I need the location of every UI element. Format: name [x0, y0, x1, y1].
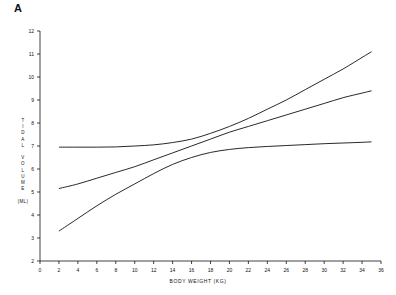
plot-area: 024681012141618202224262830323436 234567…	[0, 0, 396, 295]
data-curves	[59, 52, 372, 231]
x-tick-label: 36	[378, 267, 384, 273]
y-tick-label: 5	[31, 189, 34, 195]
y-tick-label: 9	[31, 97, 34, 103]
x-tick-label: 18	[208, 267, 214, 273]
y-tick-label: 6	[31, 166, 34, 172]
x-tick-label: 24	[265, 267, 271, 273]
y-tick-label: 11	[29, 51, 34, 57]
curve-upper	[59, 52, 372, 147]
y-axis-label: TIDAL VOLUME (ML)	[16, 118, 30, 205]
x-tick-label: 0	[39, 267, 42, 273]
y-tick-label: 2	[31, 258, 34, 264]
axes	[40, 31, 381, 261]
x-axis-ticks: 024681012141618202224262830323436	[39, 261, 384, 273]
chart-figure: A TIDAL VOLUME (ML) 02468101214161820222…	[0, 0, 396, 295]
x-tick-label: 4	[76, 267, 79, 273]
y-tick-label: 12	[28, 28, 34, 34]
y-tick-label: 3	[31, 235, 34, 241]
curve-lower	[59, 142, 372, 231]
x-tick-label: 8	[114, 267, 117, 273]
y-axis-ticks: 23456789101112	[28, 28, 40, 264]
panel-label: A	[14, 2, 22, 14]
x-tick-label: 32	[340, 267, 346, 273]
y-tick-label: 7	[31, 143, 34, 149]
x-tick-label: 6	[95, 267, 98, 273]
x-tick-label: 28	[302, 267, 308, 273]
x-tick-label: 34	[359, 267, 365, 273]
x-tick-label: 22	[246, 267, 252, 273]
y-axis-label-char: (ML)	[16, 199, 30, 205]
y-tick-label: 4	[31, 212, 34, 218]
y-tick-label: 8	[31, 120, 34, 126]
x-tick-label: 14	[170, 267, 176, 273]
x-axis-label: BODY WEIGHT (KG)	[0, 278, 396, 284]
x-tick-label: 20	[227, 267, 233, 273]
x-tick-label: 2	[58, 267, 61, 273]
x-tick-label: 30	[321, 267, 327, 273]
y-tick-label: 10	[28, 74, 34, 80]
x-tick-label: 26	[283, 267, 289, 273]
x-tick-label: 16	[189, 267, 195, 273]
x-tick-label: 12	[151, 267, 157, 273]
x-tick-label: 10	[132, 267, 138, 273]
curve-middle	[59, 91, 372, 189]
